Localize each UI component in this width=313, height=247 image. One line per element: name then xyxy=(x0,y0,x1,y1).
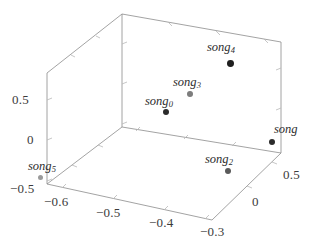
point-label-song1: song xyxy=(274,123,298,136)
tick-z-right-upper xyxy=(276,68,281,70)
z-tick-label-1: 0 xyxy=(27,133,34,146)
tick-top-2 xyxy=(96,36,100,38)
plot-axes-svg xyxy=(0,0,313,247)
data-point-song4 xyxy=(227,60,234,67)
x-tick-label-2: −0.4 xyxy=(149,216,173,229)
point-label-song0-base: song xyxy=(145,94,169,108)
tick-y-0 xyxy=(247,186,252,188)
point-label-song0: song0 xyxy=(145,95,173,108)
scatter3d-plot: 0.5 0 −0.5 −0.6 −0.5 −0.4 −0.3 0 0.5 son… xyxy=(0,0,313,247)
point-label-song0-sub: 0 xyxy=(169,99,173,109)
y-tick-label-0: 0 xyxy=(252,195,259,208)
tick-z-0.5 xyxy=(47,98,52,100)
edge-top-rear-right xyxy=(122,14,281,42)
axes-box-back-wall xyxy=(47,14,281,220)
tick-top-1 xyxy=(71,55,75,57)
point-label-song1-base: song xyxy=(274,122,298,136)
tick-top-4 xyxy=(216,31,220,35)
data-point-song3 xyxy=(187,91,193,97)
point-label-song3-sub: 3 xyxy=(197,80,201,90)
point-label-song3: song3 xyxy=(173,76,201,89)
tick-x-minus0.4 xyxy=(164,206,168,210)
axis-ticks xyxy=(47,22,281,219)
point-label-song2-sub: 2 xyxy=(229,157,233,167)
tick-z-0 xyxy=(47,138,52,140)
tick-x-minus0.5 xyxy=(113,195,117,199)
data-point-song2 xyxy=(225,168,231,174)
point-label-song4: song4 xyxy=(207,41,235,54)
edge-floor-front-left xyxy=(47,184,212,220)
x-tick-label-3: −0.3 xyxy=(200,225,224,238)
x-tick-label-1: −0.5 xyxy=(96,206,120,219)
edge-floor-rear-left xyxy=(47,127,122,184)
point-label-song5-base: song xyxy=(28,159,52,173)
tick-y-0.5 xyxy=(272,162,277,164)
z-tick-label-0: 0.5 xyxy=(12,93,29,106)
point-label-song4-base: song xyxy=(207,40,231,54)
tick-z-back-mid xyxy=(122,82,127,84)
point-label-song2-base: song xyxy=(205,152,229,166)
tick-y-back-2 xyxy=(98,145,103,147)
tick-z-back-upper xyxy=(122,42,127,44)
tick-x-minus0.3 xyxy=(205,215,209,219)
tick-z-right-mid xyxy=(276,108,281,110)
tick-y-back-1 xyxy=(72,165,77,167)
point-label-song5: song5 xyxy=(28,160,56,173)
point-label-song4-sub: 4 xyxy=(231,45,235,55)
point-label-song2: song2 xyxy=(205,153,233,166)
edge-floor-rear-right xyxy=(122,127,281,153)
x-tick-label-0: −0.6 xyxy=(44,195,68,208)
y-tick-label-1: 0.5 xyxy=(283,168,300,181)
data-point-song1 xyxy=(269,139,275,145)
point-label-song3-base: song xyxy=(173,75,197,89)
z-tick-label-2: −0.5 xyxy=(10,182,34,195)
point-label-song5-sub: 5 xyxy=(52,164,56,174)
edge-top-rear-left xyxy=(47,14,122,73)
tick-z-back-lower xyxy=(122,122,127,124)
